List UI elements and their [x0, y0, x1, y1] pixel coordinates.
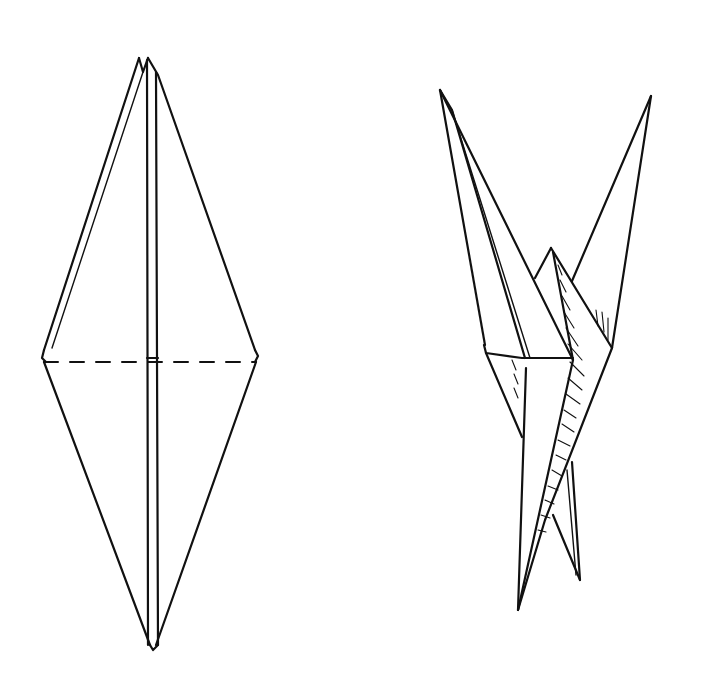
- neck-outer-edge: [440, 90, 485, 345]
- left-leg: [518, 368, 526, 610]
- shading-hatch: [512, 265, 608, 532]
- center-peak-left: [535, 248, 551, 278]
- bottom-tip: [150, 645, 158, 650]
- diagram-canvas: [0, 0, 707, 678]
- left-corner: [42, 350, 46, 362]
- folded-diamond-base: [42, 58, 258, 650]
- front-flap-right: [518, 348, 612, 610]
- neck-right-edge: [440, 90, 573, 360]
- bottom-left-edge: [44, 362, 150, 645]
- tail-right-edge: [612, 96, 651, 348]
- left-outer-edge-top: [44, 58, 139, 350]
- folded-crane-side-view: [440, 90, 651, 610]
- right-edge-top: [148, 58, 255, 350]
- right-corner: [255, 350, 258, 362]
- tail-left-edge: [572, 96, 651, 281]
- bottom-right-edge: [156, 362, 256, 645]
- front-flap-left: [518, 360, 573, 610]
- neck-inner-edge-2: [452, 110, 530, 358]
- neck-inner-edge-1: [440, 90, 525, 358]
- left-inner-edge-top: [52, 72, 143, 348]
- center-strip-left: [147, 60, 148, 645]
